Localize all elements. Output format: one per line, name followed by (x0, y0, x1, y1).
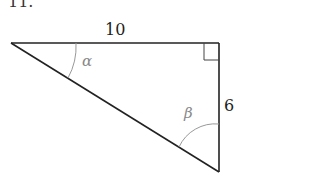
right-side-label: 6 (224, 96, 234, 115)
alpha-label: α (82, 52, 92, 70)
top-side-label: 10 (105, 20, 125, 39)
beta-arc (179, 124, 219, 147)
beta-label: β (184, 104, 193, 122)
alpha-arc (68, 43, 76, 78)
right-angle-marker (204, 43, 219, 60)
